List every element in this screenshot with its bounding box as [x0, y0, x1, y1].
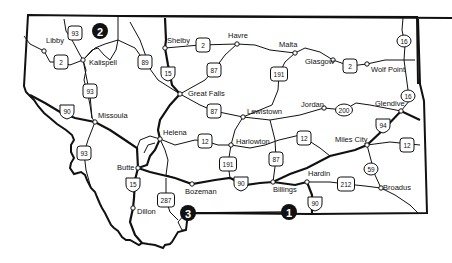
- marker-2: 2: [92, 23, 108, 39]
- us-route-shield: 2: [343, 59, 357, 73]
- marker-number: 3: [185, 208, 191, 220]
- marker-number: 1: [286, 207, 292, 219]
- marker-3: 3: [180, 205, 196, 221]
- route-number: 200: [339, 107, 350, 114]
- route-number: 16: [404, 93, 412, 100]
- us-route-shield: 89: [138, 55, 152, 69]
- route-number: 12: [201, 138, 209, 145]
- route-number: 2: [59, 59, 63, 66]
- us-route-shield: 191: [220, 157, 237, 171]
- city-label: Lewistown: [247, 107, 282, 116]
- marker-number: 2: [97, 26, 103, 38]
- city-label: Great Falls: [188, 89, 225, 98]
- city-label: Glendive: [375, 99, 405, 108]
- city-label: Missoula: [98, 111, 128, 120]
- us-route-shield: 12: [400, 138, 414, 152]
- route-number: 2: [201, 42, 205, 49]
- montana-road-map: LibbyKalispellMissoulaShelbyHavreMaltaGl…: [0, 0, 452, 263]
- city-label: Kalispell: [89, 58, 117, 67]
- route-number: 12: [300, 135, 308, 142]
- us-route-shield: 93: [68, 26, 82, 40]
- city-label: Glasgow: [305, 57, 335, 66]
- us-route-shield: 12: [198, 134, 212, 148]
- city-labels: LibbyKalispellMissoulaShelbyHavreMaltaGl…: [46, 31, 411, 216]
- interstate-route-shield: 90: [308, 197, 322, 211]
- route-number: 93: [71, 30, 79, 37]
- interstate-route-shield: 15: [161, 67, 175, 81]
- interstate-route-shield: 90: [234, 177, 248, 191]
- route-number: 90: [311, 200, 319, 207]
- us-route-shield: 93: [77, 146, 91, 160]
- route-number: 90: [63, 108, 71, 115]
- route-number: 16: [400, 38, 408, 45]
- route-number: 93: [86, 88, 94, 95]
- us-route-shield: 87: [207, 104, 221, 118]
- state-route-shield: 16: [397, 35, 411, 47]
- route-number: 90: [237, 180, 245, 187]
- city-label: Helena: [163, 128, 188, 137]
- marker-1: 1: [281, 204, 297, 220]
- state-route-shield: 200: [336, 104, 353, 116]
- city-label: Libby: [46, 36, 64, 45]
- interstate-route-shield: 15: [126, 178, 140, 192]
- city-label: Dillon: [137, 207, 156, 216]
- city-label: Billings: [273, 185, 297, 194]
- city-label: Shelby: [167, 36, 190, 45]
- route-number: 2: [348, 63, 352, 70]
- route-number: 15: [129, 181, 137, 188]
- city-label: Bozeman: [185, 187, 217, 196]
- route-number: 89: [141, 59, 149, 66]
- us-route-shield: 12: [297, 131, 311, 145]
- us-route-shield: 212: [338, 177, 355, 191]
- city-label: Jordan: [301, 100, 324, 109]
- us-route-shield: 93: [83, 84, 97, 98]
- city-label: Malta: [279, 40, 298, 49]
- us-route-shield: 2: [196, 38, 210, 52]
- us-route-shield: 87: [207, 63, 221, 77]
- city-label: Havre: [228, 31, 248, 40]
- state-route-shield: 16: [401, 90, 415, 102]
- interstate-route-shield: 94: [376, 119, 390, 133]
- route-number: 191: [274, 71, 285, 78]
- city-label: Harlowton: [236, 137, 270, 146]
- route-number: 87: [210, 67, 218, 74]
- route-number: 287: [161, 197, 172, 204]
- us-route-shield: 2: [54, 55, 68, 69]
- route-number: 15: [164, 70, 172, 77]
- route-line-3-to-1: [188, 212, 289, 213]
- city-label: Broadus: [383, 183, 411, 192]
- route-number: 93: [80, 150, 88, 157]
- city-label: Wolf Point: [371, 65, 406, 74]
- route-number: 191: [223, 161, 234, 168]
- city-label: Hardin: [308, 169, 330, 178]
- state-route-shield: 59: [364, 163, 378, 175]
- interstate-route-shield: 90: [60, 105, 74, 119]
- route-number: 212: [341, 181, 352, 188]
- us-route-shield: 87: [269, 152, 283, 166]
- route-number: 87: [272, 156, 280, 163]
- city-label: Miles City: [335, 135, 368, 144]
- us-route-shield: 191: [271, 67, 288, 81]
- city-label: Butte: [117, 163, 135, 172]
- route-number: 59: [367, 166, 375, 173]
- route-number: 12: [403, 142, 411, 149]
- route-number: 87: [210, 108, 218, 115]
- route-number: 94: [379, 122, 387, 129]
- us-route-shield: 287: [158, 193, 175, 207]
